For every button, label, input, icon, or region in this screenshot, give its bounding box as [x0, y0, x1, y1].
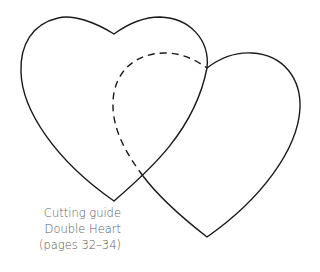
left-heart-outline: [21, 17, 207, 201]
cutting-guide-caption: Cutting guide Double Heart (pages 32–34): [39, 205, 121, 253]
caption-pages: (pages 32–34): [39, 237, 121, 253]
caption-subtitle: Double Heart: [39, 221, 121, 237]
caption-title: Cutting guide: [39, 205, 121, 221]
right-heart-outline: [143, 53, 300, 237]
